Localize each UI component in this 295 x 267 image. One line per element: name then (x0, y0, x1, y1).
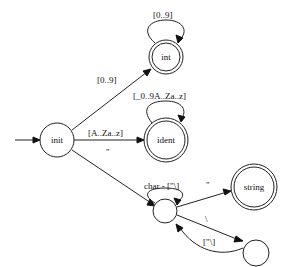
state-init: init (40, 123, 74, 157)
state-label-string: string (244, 182, 265, 192)
state-string: string (231, 164, 277, 210)
edge-label-instr-to-string: " (206, 180, 210, 190)
state-diagram: [0..9] [0..9] [A..Za..z] [_0..9A..Za..z]… (0, 0, 295, 267)
edge-init-to-instr: " (72, 147, 155, 206)
edge-label-init-to-ident: [A..Za..z] (88, 128, 123, 138)
edge-label-init-to-instr: " (106, 147, 110, 157)
edge-instr-to-string: " (177, 180, 231, 207)
edge-label-escape-to-instr: ["\] (203, 237, 215, 247)
state-ident: ident (144, 118, 188, 162)
state-label-int: int (161, 52, 171, 62)
edge-init-to-ident: [A..Za..z] (74, 128, 144, 143)
edge-label-instr-to-escape: \ (205, 214, 208, 224)
state-in-string (153, 199, 177, 223)
edge-label-instr-loop: char - ["\] (144, 181, 179, 191)
start-arrow (15, 137, 40, 143)
edge-label-int-loop: [0..9] (153, 10, 173, 20)
state-label-ident: ident (157, 135, 175, 145)
edge-label-init-to-int: [0..9] (97, 75, 117, 85)
state-escape (243, 240, 269, 266)
edge-int-loop: [0..9] (148, 10, 184, 43)
edge-ident-loop: [_0..9A..Za..z] (133, 91, 186, 123)
state-label-init: init (51, 135, 64, 145)
state-int: int (149, 40, 183, 74)
edge-label-ident-loop: [_0..9A..Za..z] (133, 91, 186, 101)
